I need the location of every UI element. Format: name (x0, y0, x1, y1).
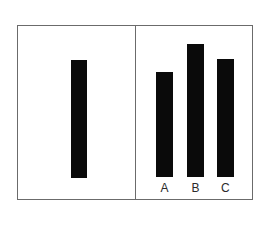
bar-label-c: C (214, 182, 238, 195)
chart-panel-right: A B C (135, 26, 252, 199)
bar-b (187, 44, 204, 177)
figure-frame: A B C (17, 25, 253, 200)
bar-left-single (71, 60, 87, 178)
bar-label-a: A (153, 182, 177, 195)
bar-a (156, 72, 173, 177)
bar-c (217, 59, 234, 177)
bar-label-b: B (184, 182, 208, 195)
chart-panel-left (18, 26, 135, 199)
